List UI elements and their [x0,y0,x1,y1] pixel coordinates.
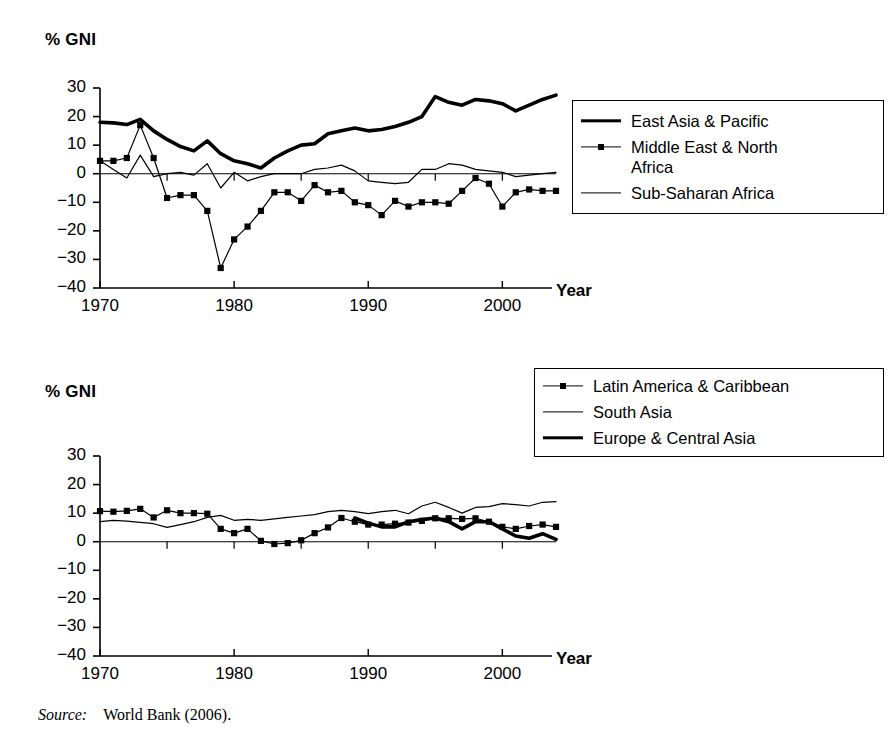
x-tick-label: 1970 [65,296,135,316]
series-marker [365,202,371,208]
series-marker [110,509,116,515]
x-tick-label: 1980 [199,664,269,684]
legend-swatch-thick-icon [579,111,623,131]
legend-item[interactable]: Latin America & Caribbean [541,376,875,396]
series-marker [151,155,157,161]
x-axis-title-bottom: Year [556,649,592,669]
series-marker [231,530,237,536]
series-marker [432,199,438,205]
source-text: World Bank (2006). [103,706,231,723]
series-marker [446,201,452,207]
series-marker [298,198,304,204]
series-marker [486,181,492,187]
legend-label: Middle East & North Africa [631,137,778,177]
series-line [355,518,556,539]
legend-bottom: Latin America & CaribbeanSouth AsiaEurop… [534,368,884,457]
y-tick-label: −10 [22,191,86,211]
series-line [100,95,556,168]
series-marker [325,189,331,195]
legend-label: Europe & Central Asia [593,428,755,448]
series-marker [352,199,358,205]
x-tick-label: 2000 [467,296,537,316]
legend-item[interactable]: Middle East & North Africa [579,137,875,177]
x-tick-label: 1970 [65,664,135,684]
series-marker [338,188,344,194]
x-tick-label: 1990 [333,296,403,316]
series-marker [97,508,103,514]
legend-swatch-thin-icon [579,183,623,203]
series-marker [539,188,545,194]
y-tick-label: 10 [22,134,86,154]
source-note: Source:World Bank (2006). [38,706,231,724]
series-marker [311,182,317,188]
y-tick-label: 0 [22,531,86,551]
legend-label: Latin America & Caribbean [593,376,789,396]
series-marker [204,511,210,517]
series-marker [191,192,197,198]
series-marker [338,515,344,521]
legend-label: Sub-Saharan Africa [631,183,774,203]
y-tick-label: −10 [22,559,86,579]
series-marker [271,541,277,547]
legend-item[interactable]: South Asia [541,402,875,422]
series-marker [110,158,116,164]
series-marker [124,508,130,514]
y-tick-label: −20 [22,588,86,608]
series-marker [204,208,210,214]
series-marker [258,208,264,214]
series-marker [392,198,398,204]
series-marker [379,212,385,218]
y-tick-label: 10 [22,502,86,522]
legend-swatch-marker-icon [541,376,585,396]
series-marker [164,195,170,201]
series-marker [285,189,291,195]
series-marker [258,538,264,544]
legend-item[interactable]: Sub-Saharan Africa [579,183,875,203]
series-marker [244,526,250,532]
y-tick-label: −20 [22,220,86,240]
series-marker [513,189,519,195]
legend-item[interactable]: Europe & Central Asia [541,428,875,448]
legend-swatch-thick-icon [541,428,585,448]
series-marker [539,521,545,527]
chart-bottom: % GNI Year Latin America & CaribbeanSout… [0,340,893,710]
legend-swatch-thin-icon [541,402,585,422]
series-marker [419,199,425,205]
y-tick-label: −40 [22,645,86,665]
x-axis-title-top: Year [556,281,592,301]
series-marker [285,540,291,546]
series-marker [298,537,304,543]
series-marker [325,524,331,530]
series-marker [124,155,130,161]
y-tick-label: 30 [22,77,86,97]
series-marker [218,265,224,271]
series-marker [526,523,532,529]
series-marker [164,507,170,513]
series-marker [151,514,157,520]
y-tick-label: 20 [22,474,86,494]
series-marker [137,122,143,128]
series-marker [459,516,465,522]
series-marker [271,189,277,195]
x-tick-label: 1990 [333,664,403,684]
x-tick-label: 2000 [467,664,537,684]
legend-label: East Asia & Pacific [631,111,769,131]
series-marker [459,188,465,194]
series-marker [177,192,183,198]
series-marker [177,510,183,516]
series-marker [553,188,559,194]
series-marker [553,524,559,530]
y-tick-label: −40 [22,277,86,297]
series-marker [218,526,224,532]
x-tick-label: 1980 [199,296,269,316]
series-marker [499,203,505,209]
chart-top: % GNI Year East Asia & PacificMiddle Eas… [0,0,893,340]
y-tick-label: 0 [22,163,86,183]
series-marker [472,175,478,181]
source-label: Source: [38,706,87,723]
series-marker [405,203,411,209]
series-marker [231,236,237,242]
legend-item[interactable]: East Asia & Pacific [579,111,875,131]
series-marker [513,526,519,532]
legend-top: East Asia & PacificMiddle East & North A… [572,100,884,214]
